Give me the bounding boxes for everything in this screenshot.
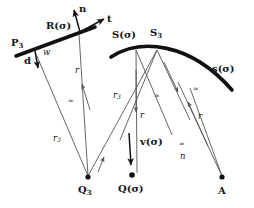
label-v-sigma: v(σ) [140,137,163,147]
ray-q3-to-s3 [88,50,157,176]
point-a-dot [219,174,224,179]
point-q3-dot [85,174,90,179]
ray-r-left [79,34,90,176]
ray-a-to-s-sigma [190,88,222,176]
ray-s3-downright [157,50,190,120]
label-q3: Q3 [78,185,92,196]
ray-r-mid [136,50,137,173]
label-t-vector: t [107,14,112,24]
label-r3-mid-subscript: 3 [117,93,121,100]
label-q3-base: Q [78,184,87,195]
label-q3-subscript: 3 [87,188,92,197]
vector-v-sigma [129,133,131,165]
label-s3: S3 [150,28,162,39]
label-r3-mid: r3 [113,91,121,100]
label-a: A [218,186,226,196]
label-w: w [43,48,50,57]
point-q-sigma-dot [129,172,135,178]
label-s3-subscript: 3 [157,31,162,40]
vector-d [35,51,38,68]
label-r3-left: r3 [53,134,61,143]
label-r-mid: r [140,111,144,120]
label-r-right: r [198,112,202,121]
tangent-vector-t [80,19,104,32]
break-mark-1: ≈ [68,97,74,105]
ray-r3-left [36,54,88,176]
label-r-sigma: R(σ) [46,21,71,31]
label-s-sigma-curve: s(σ) [212,64,234,74]
label-q-sigma: Q(σ) [118,184,144,194]
left-curve-segment [16,27,95,56]
label-r3-left-subscript: 3 [57,136,61,143]
break-mark-4: ≈ [179,140,185,148]
label-p3-subscript: 3 [19,41,24,50]
label-d-vector: d [24,56,31,66]
label-n-right: n [180,152,185,161]
break-mark-2: ≈ [154,92,160,100]
label-r-left: r [75,66,79,75]
ray-a-to-s3 [178,82,222,176]
label-p3-base: P [11,37,19,48]
break-mark-3: ≈ [193,85,199,93]
ray-s3-downleft [120,50,157,140]
label-n-vector: n [79,4,86,14]
label-s-sigma: S(σ) [112,30,136,40]
label-p3: P3 [11,38,23,49]
diagram-figure: ≈ ≈ ≈ ≈ ≈ n t R(σ) P3 d S(σ) S3 s(σ) v(σ… [0,0,254,208]
